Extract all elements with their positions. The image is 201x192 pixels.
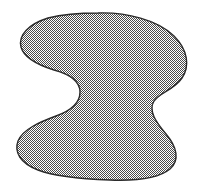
figure-canvas [0,0,201,192]
blob-figure-svg [0,0,201,192]
